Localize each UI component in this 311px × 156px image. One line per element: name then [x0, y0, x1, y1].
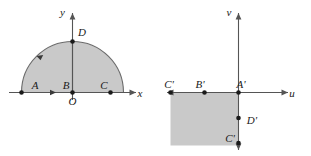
- label-point-d: D: [77, 26, 86, 38]
- left-panel-z-plane: y x A B C D O: [9, 6, 143, 107]
- point-c-dot: [108, 90, 113, 95]
- label-point-a: A: [31, 79, 39, 91]
- point-a-dot: [19, 90, 24, 95]
- label-point-d-prime: D': [246, 114, 258, 126]
- label-point-a-prime: A': [235, 78, 246, 90]
- label-point-c: C: [100, 79, 108, 91]
- label-point-c-prime-bottom: C': [225, 132, 235, 144]
- right-panel-w-plane: v u A' B' C' D' C': [164, 6, 295, 150]
- point-d-prime-dot: [236, 116, 241, 121]
- point-c-prime-bottom-dot: [236, 141, 241, 146]
- u-axis-right-arrowhead: [282, 90, 289, 96]
- label-origin-o: O: [69, 95, 77, 107]
- point-a-prime-dot: [236, 90, 241, 95]
- label-x-axis: x: [137, 87, 143, 99]
- x-axis-arrowhead: [130, 90, 137, 96]
- label-y-axis: y: [59, 6, 65, 18]
- label-point-c-prime-left: C': [164, 78, 174, 90]
- label-point-b: B: [63, 79, 70, 91]
- point-b-prime-dot: [202, 90, 207, 95]
- label-u-axis: u: [289, 87, 295, 99]
- point-d-dot: [70, 39, 75, 44]
- mapping-diagram: y x A B C D O: [0, 0, 311, 156]
- v-axis-up-arrowhead: [236, 13, 242, 20]
- point-c-prime-left-dot: [168, 90, 173, 95]
- y-axis-arrowhead: [70, 13, 76, 20]
- figure-container: y x A B C D O: [0, 0, 311, 156]
- label-v-axis: v: [227, 6, 232, 18]
- label-point-b-prime: B': [195, 78, 205, 90]
